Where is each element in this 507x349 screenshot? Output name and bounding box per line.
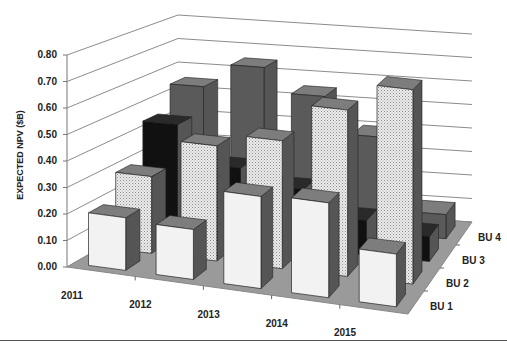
y-tick-label: 0.80 bbox=[23, 49, 57, 60]
gridline bbox=[67, 15, 472, 55]
x-tick-label: 2013 bbox=[198, 309, 220, 320]
bar-bu1-2015 bbox=[359, 238, 405, 307]
y-tick-label: 0.00 bbox=[23, 261, 57, 272]
depth-tick-label: BU 4 bbox=[478, 232, 501, 243]
bar-bu1-2012 bbox=[156, 216, 206, 280]
y-tick-label: 0.20 bbox=[23, 208, 57, 219]
x-tick-label: 2012 bbox=[129, 299, 151, 310]
x-tick-label: 2015 bbox=[334, 327, 356, 338]
depth-tick-label: BU 2 bbox=[446, 278, 469, 289]
y-tick-label: 0.70 bbox=[23, 76, 57, 87]
bar-bu1-2014 bbox=[292, 188, 340, 298]
bar-bu1-2013 bbox=[224, 182, 273, 288]
y-tick-label: 0.10 bbox=[23, 235, 57, 246]
y-tick-label: 0.40 bbox=[23, 155, 57, 166]
bar-bu1-2011 bbox=[89, 205, 140, 271]
y-tick-label: 0.50 bbox=[23, 129, 57, 140]
x-tick-label: 2011 bbox=[61, 290, 83, 301]
depth-tick-label: BU 3 bbox=[462, 255, 485, 266]
x-tick-label: 2014 bbox=[266, 318, 288, 329]
caption-divider bbox=[0, 340, 507, 341]
depth-tick-label: BU 1 bbox=[430, 301, 453, 312]
y-tick-label: 0.30 bbox=[23, 182, 57, 193]
y-tick-label: 0.60 bbox=[23, 102, 57, 113]
